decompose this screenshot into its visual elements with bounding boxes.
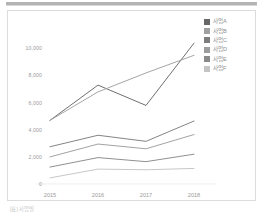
legend-swatch-icon: [204, 28, 210, 34]
series-line-사업C: [50, 121, 194, 147]
x-tick-label: 2018: [179, 192, 209, 199]
document-page: 02,0004,0006,0008,00010,000 201520162017…: [0, 0, 263, 215]
legend-item-사업D[interactable]: 사업D: [204, 45, 254, 54]
legend-label: 사업B: [213, 28, 227, 35]
series-line-사업B: [50, 55, 194, 120]
legend-item-사업E[interactable]: 사업E: [204, 55, 254, 64]
legend-item-사업F[interactable]: 사업F: [204, 64, 254, 73]
y-tick-label: 10,000: [8, 45, 42, 51]
legend-label: 사업D: [213, 46, 227, 53]
y-tick-label: 0: [8, 181, 42, 187]
legend-swatch-icon: [204, 19, 210, 25]
legend-swatch-icon: [204, 47, 210, 53]
series-line-사업E: [50, 154, 194, 167]
bottom-caption: [표] 사업별: [10, 205, 35, 214]
chart-inner: 02,0004,0006,0008,00010,000 201520162017…: [8, 11, 255, 200]
chart-legend: 사업A사업B사업C사업D사업E사업F: [204, 17, 254, 73]
legend-label: 사업A: [213, 18, 227, 25]
y-tick-label: 2,000: [8, 154, 42, 160]
y-tick-label: 8,000: [8, 72, 42, 78]
top-divider-rule-secondary: [6, 5, 257, 6]
legend-item-사업A[interactable]: 사업A: [204, 17, 254, 26]
legend-swatch-icon: [204, 37, 210, 43]
x-tick-label: 2017: [131, 192, 161, 199]
legend-swatch-icon: [204, 56, 210, 62]
y-tick-label: 6,000: [8, 100, 42, 106]
y-tick-label: 4,000: [8, 127, 42, 133]
legend-item-사업B[interactable]: 사업B: [204, 26, 254, 35]
legend-item-사업C[interactable]: 사업C: [204, 36, 254, 45]
x-tick-label: 2015: [35, 192, 65, 199]
legend-swatch-icon: [204, 66, 210, 72]
series-line-사업F: [50, 168, 194, 177]
legend-label: 사업C: [213, 37, 227, 44]
series-line-사업A: [50, 43, 194, 120]
chart-frame: 02,0004,0006,0008,00010,000 201520162017…: [7, 10, 256, 201]
legend-label: 사업E: [213, 56, 227, 63]
x-tick-label: 2016: [83, 192, 113, 199]
legend-label: 사업F: [213, 65, 226, 72]
